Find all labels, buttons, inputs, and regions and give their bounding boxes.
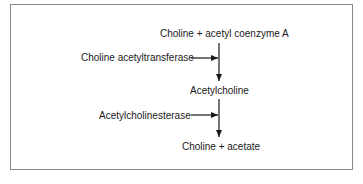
synthesis-arrow-icon: [191, 43, 219, 81]
reaction-arrows: [0, 0, 363, 184]
degradation-arrow-icon: [191, 99, 219, 137]
